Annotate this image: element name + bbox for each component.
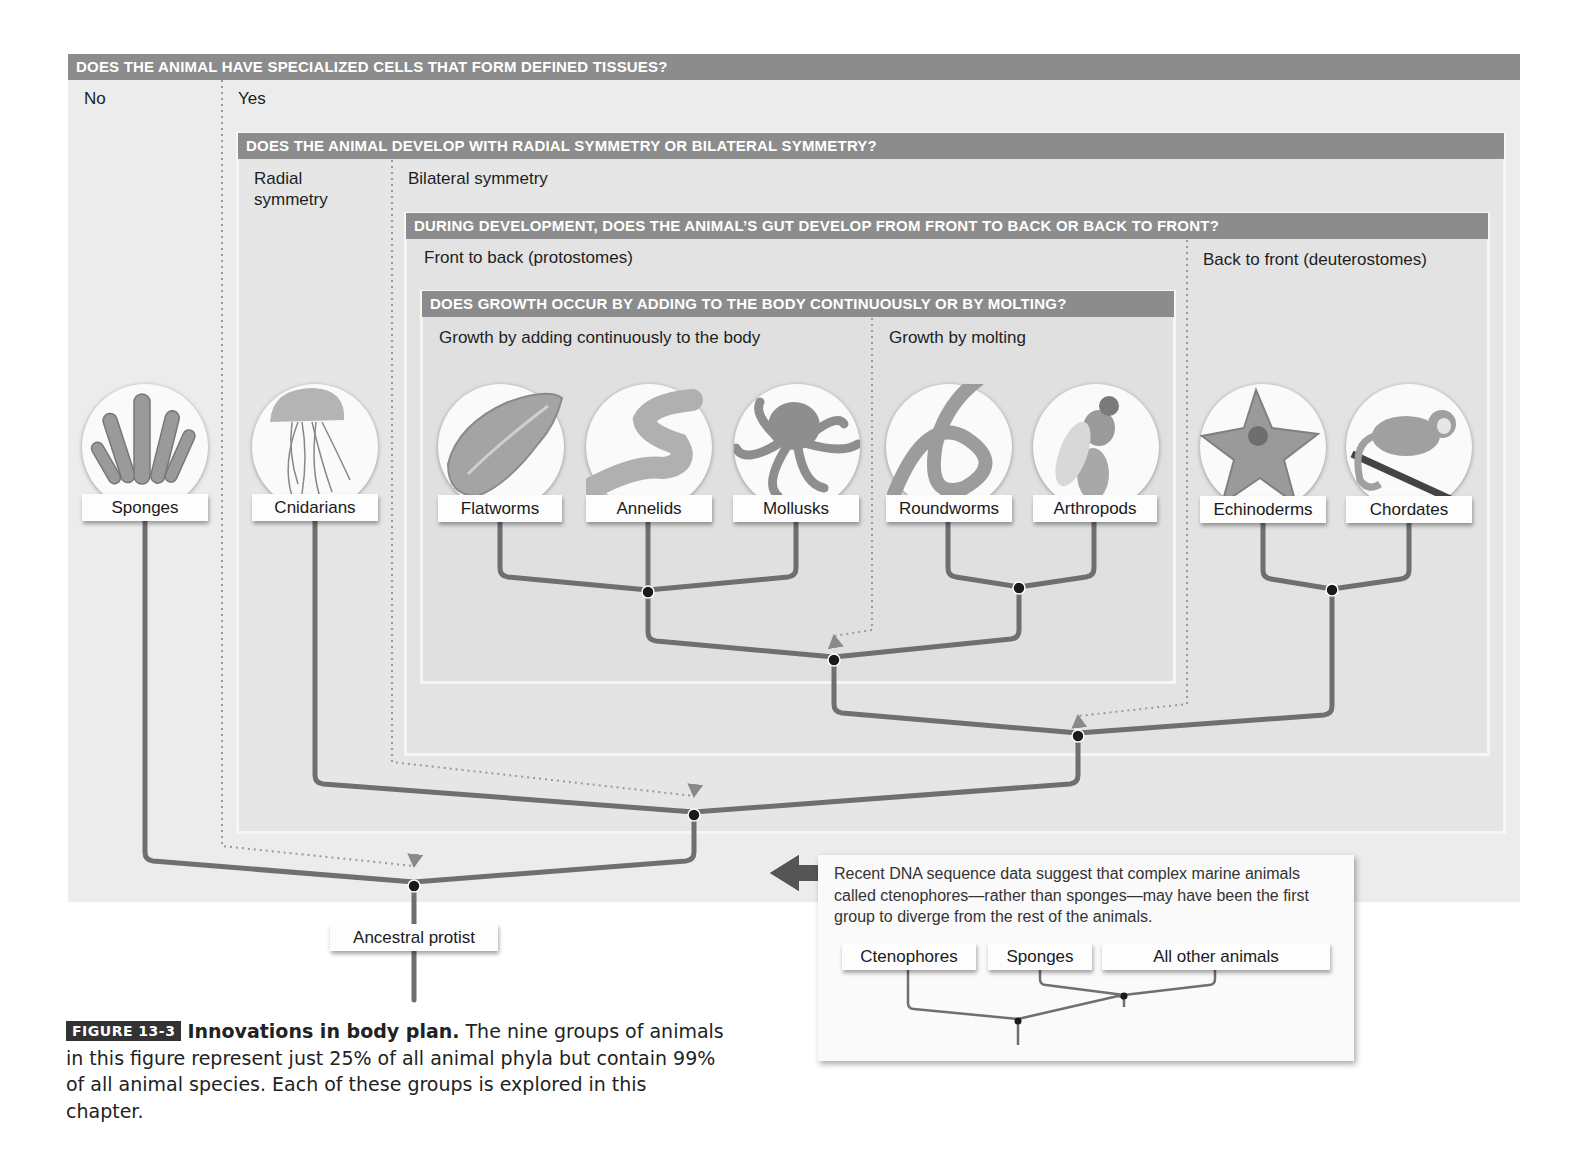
note-label-sponges: Sponges (988, 943, 1092, 970)
note-label-all-other: All other animals (1102, 943, 1330, 970)
group-label-annelids: Annelids (586, 495, 712, 522)
starfish-icon (1200, 384, 1326, 510)
jellyfish-icon (252, 384, 378, 510)
group-label-echinoderms: Echinoderms (1200, 496, 1326, 523)
figure-caption: FIGURE 13-3Innovations in body plan. The… (66, 1018, 726, 1124)
earthworm-icon (586, 384, 712, 510)
group-label-arthropods: Arthropods (1033, 495, 1157, 522)
figure-tag: FIGURE 13-3 (66, 1021, 181, 1041)
root-label: Ancestral protist (330, 924, 498, 951)
group-label-cnidarians: Cnidarians (252, 494, 378, 521)
group-label-sponges: Sponges (82, 494, 208, 521)
monkey-icon (1346, 384, 1472, 510)
roundworm-icon (886, 384, 1012, 510)
octopus-icon (734, 384, 860, 510)
group-label-flatworms: Flatworms (438, 495, 562, 522)
group-label-roundworms: Roundworms (886, 495, 1012, 522)
branch-nodes (408, 582, 1338, 892)
group-label-chordates: Chordates (1346, 496, 1472, 523)
note-label-ctenophores: Ctenophores (842, 943, 976, 970)
group-label-mollusks: Mollusks (733, 495, 859, 522)
flatworm-icon (438, 384, 564, 510)
fly-icon (1033, 384, 1159, 510)
caption-title: Innovations in body plan. (187, 1020, 459, 1042)
ctenophore-note: Recent DNA sequence data suggest that co… (818, 855, 1354, 1061)
sponge-icon (82, 384, 208, 510)
